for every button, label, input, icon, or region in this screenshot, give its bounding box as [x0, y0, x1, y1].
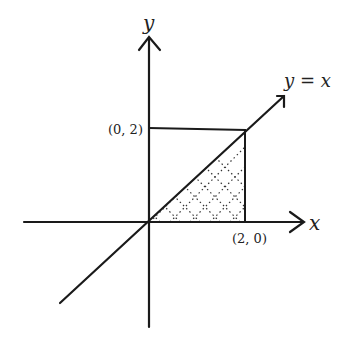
point-label-2-0: (2, 0) — [232, 231, 267, 246]
shaded-region — [60, 122, 330, 222]
y-axis-label: y — [142, 11, 155, 35]
point-label-0-2: (0, 2) — [108, 122, 143, 137]
y-axis — [139, 37, 160, 327]
x-axis-label: x — [309, 211, 320, 235]
diagram-canvas: y x y = x (0, 2) (2, 0) — [0, 0, 352, 343]
line-y-equals-x — [60, 96, 284, 303]
line-label: y = x — [283, 70, 331, 91]
x-axis — [24, 212, 304, 232]
